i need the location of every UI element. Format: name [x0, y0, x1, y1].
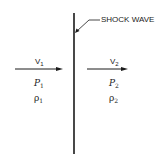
upstream-pressure-label: P1 [34, 79, 44, 90]
shock-wave-label: SHOCK WAVE [101, 16, 154, 24]
upstream-arrowhead-icon [56, 67, 63, 71]
upstream-velocity-label: V1 [35, 57, 44, 69]
downstream-arrowhead-icon [121, 67, 128, 71]
downstream-velocity-label: V2 [110, 57, 119, 69]
shock-diagram-graphics [0, 0, 164, 160]
shock-wave-leader [77, 20, 100, 31]
downstream-density-label: ρ2 [109, 94, 118, 105]
downstream-pressure-label: P2 [109, 79, 119, 90]
upstream-density-label: ρ1 [34, 94, 43, 105]
